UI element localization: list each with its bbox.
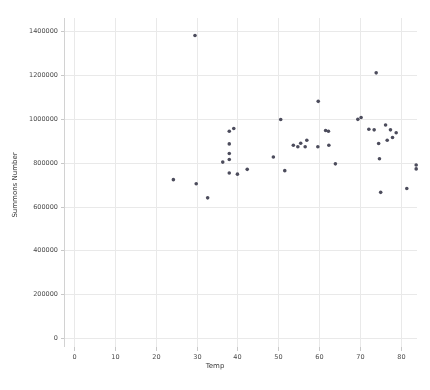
- y-axis-label: Summons Number: [11, 125, 19, 245]
- x-axis-label: Temp: [0, 362, 430, 370]
- scatter-plot-figure: Temp Summons Number: [0, 0, 430, 390]
- scatter-plot-canvas: [0, 0, 430, 390]
